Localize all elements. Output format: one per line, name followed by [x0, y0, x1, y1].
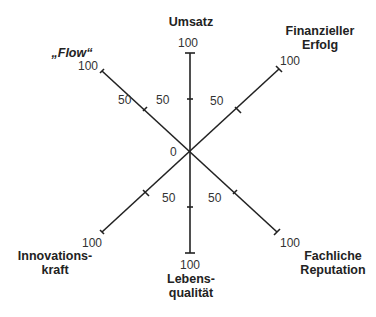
label-line: Fachliche: [293, 249, 373, 263]
label-line: kraft: [15, 263, 95, 277]
label-lebensqualitaet: Lebens- qualität: [160, 272, 222, 300]
tick-fach-100: 100: [280, 236, 300, 250]
tick-fach-50: 50: [208, 191, 221, 205]
tick-flow-50: 50: [118, 93, 131, 107]
tick-flow-100: 100: [78, 59, 98, 73]
label-finanzieller-erfolg: Finanzieller Erfolg: [270, 24, 370, 52]
label-umsatz: Umsatz: [163, 15, 219, 29]
label-line: Erfolg: [270, 38, 370, 52]
tick-innov-50: 50: [162, 191, 175, 205]
tick-umsatz-50: 50: [156, 93, 169, 107]
tick-umsatz-100: 100: [178, 36, 198, 50]
tick-innov-100: 100: [82, 236, 102, 250]
tick-finanz-50: 50: [210, 94, 223, 108]
label-line: Lebens-: [160, 272, 222, 286]
label-line: qualität: [160, 286, 222, 300]
tick-center-0: 0: [170, 145, 177, 159]
label-line: Innovations-: [15, 249, 95, 263]
label-fachliche-reputation: Fachliche Reputation: [293, 249, 373, 277]
label-line: Finanzieller: [270, 24, 370, 38]
tick-leben-100: 100: [180, 258, 200, 272]
tick-finanz-100: 100: [280, 54, 300, 68]
label-innovationskraft: Innovations- kraft: [15, 249, 95, 277]
label-flow: „Flow“: [50, 46, 94, 60]
label-line: Reputation: [293, 263, 373, 277]
